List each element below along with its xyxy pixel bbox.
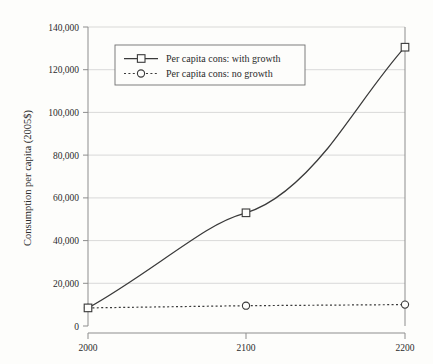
x-tick-label-2200: 2200: [396, 343, 415, 353]
x-axis: [88, 333, 405, 339]
y-axis-title: Consumption per capita (2005$): [22, 109, 34, 246]
legend-circle-marker-icon: [137, 70, 144, 77]
legend-square-marker-icon: [137, 55, 145, 63]
data-point-no-growth-2200: [401, 301, 408, 308]
x-axis-tick-labels: 2000 2100 2200: [79, 343, 415, 353]
series-with-growth-line: [88, 47, 405, 308]
data-point-with-growth-2200: [401, 43, 409, 51]
y-tick-label-60000: 60,000: [53, 193, 79, 203]
y-tick-label-140000: 140,000: [48, 23, 79, 33]
y-axis-tick-labels: 140,000 120,000 100,000 80,000 60,000 40…: [48, 23, 79, 332]
y-tick-label-100000: 100,000: [48, 108, 79, 118]
y-tick-label-120000: 120,000: [48, 65, 79, 75]
legend-label-with-growth: Per capita cons: with growth: [166, 53, 280, 64]
x-tick-label-2100: 2100: [237, 343, 256, 353]
series-no-growth: [84, 301, 408, 312]
data-point-no-growth-2100: [242, 302, 249, 309]
y-tick-label-40000: 40,000: [53, 236, 79, 246]
y-axis-ticks: [83, 27, 88, 326]
y-tick-label-80000: 80,000: [53, 151, 79, 161]
chart-legend: Per capita cons: with growth Per capita …: [115, 45, 305, 85]
x-tick-label-2000: 2000: [79, 343, 98, 353]
y-tick-label-20000: 20,000: [53, 279, 79, 289]
data-point-with-growth-2100: [242, 209, 250, 217]
y-tick-label-0: 0: [74, 322, 79, 332]
legend-box: [115, 45, 305, 85]
line-chart: Consumption per capita (2005$): [0, 0, 433, 364]
chart-figure: Consumption per capita (2005$): [0, 0, 433, 364]
legend-label-no-growth: Per capita cons: no growth: [166, 68, 273, 79]
data-point-with-growth-2000: [84, 304, 92, 312]
